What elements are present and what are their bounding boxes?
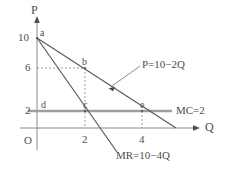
point-marker-b [84,67,86,69]
y-tick-label-10: 10 [18,32,29,43]
mr-equation-label: MR=10−4Q [116,150,170,161]
point-label-d: d [41,100,46,110]
y-tick-label-2: 2 [25,105,31,116]
mc-equation-label: MC=2 [176,105,205,116]
y-tick-label-6: 6 [25,62,31,73]
y-axis-label: P [31,4,38,16]
demand-curve [37,38,176,128]
economics-monopoly-diagram: P Q O 10 6 2 2 4 a b c d e P=10−2Q MC=2 … [0,0,234,174]
x-axis-label: Q [205,121,214,133]
point-marker-e [141,110,143,112]
chart-canvas [0,0,234,174]
axes-group [20,16,200,150]
guide-lines-group [37,68,142,128]
x-tick-label-4: 4 [139,134,145,145]
point-marker-a [36,37,38,39]
origin-label: O [24,135,32,146]
point-label-a: a [40,28,44,38]
point-marker-c [84,110,86,112]
point-label-b: b [82,57,87,67]
point-label-c: c [83,100,87,110]
y-axis-arrow-icon [34,16,40,23]
x-axis-arrow-icon [193,125,200,131]
x-tick-label-2: 2 [82,134,88,145]
point-label-e: e [140,100,144,110]
mr-curve [37,38,117,152]
demand-annotation-arrow [109,66,141,91]
demand-equation-label: P=10−2Q [142,59,185,70]
